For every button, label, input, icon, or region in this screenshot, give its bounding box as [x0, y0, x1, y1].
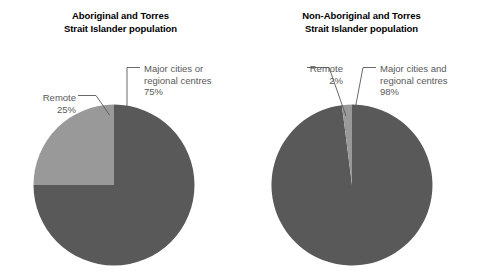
leader-line-major-cities: [127, 68, 140, 113]
label-major-cities-non-aboriginal: Major cities and regional centres 98%: [380, 63, 448, 98]
label-remote-non-aboriginal: Remote 2%: [283, 63, 343, 86]
label-remote-name: Remote: [14, 92, 76, 104]
label-major-cities-aboriginal: Major cities or regional centres 75%: [144, 63, 212, 98]
label-remote-name: Remote: [283, 63, 343, 75]
label-major-line-1: Major cities or: [144, 63, 212, 75]
pie-aboriginal: [0, 0, 241, 278]
label-major-line-2: regional centres: [380, 75, 448, 87]
pie-chart-figure: Aboriginal and Torres Strait Islander po…: [0, 0, 482, 278]
label-major-line-1: Major cities and: [380, 63, 448, 75]
pie-non-aboriginal: [241, 0, 482, 278]
pie-slice-remote: [34, 105, 115, 186]
label-remote-value: 2%: [283, 75, 343, 87]
chart-panel-aboriginal: Aboriginal and Torres Strait Islander po…: [0, 0, 241, 278]
label-major-value: 98%: [380, 86, 448, 98]
chart-panel-non-aboriginal: Non-Aboriginal and Torres Strait Islande…: [241, 0, 482, 278]
label-remote-value: 25%: [14, 104, 76, 116]
label-major-line-2: regional centres: [144, 75, 212, 87]
label-major-value: 75%: [144, 86, 212, 98]
label-remote-aboriginal: Remote 25%: [14, 92, 76, 115]
